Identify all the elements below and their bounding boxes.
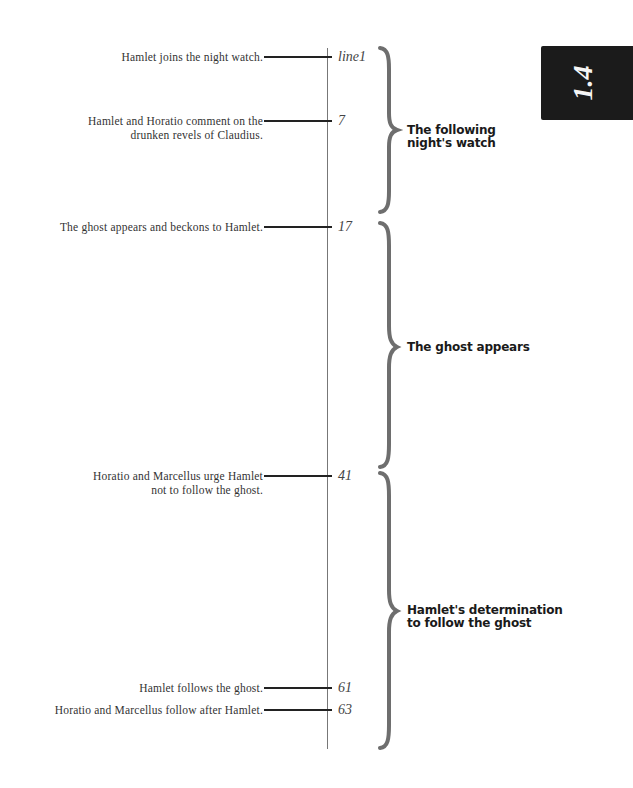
section-brace-icon bbox=[378, 47, 400, 213]
line-number: 17 bbox=[338, 220, 352, 234]
line-number: 61 bbox=[338, 681, 352, 695]
event-description: The ghost appears and beckons to Hamlet. bbox=[60, 220, 263, 234]
scene-number: 1.4 bbox=[568, 63, 598, 103]
line-number: 7 bbox=[338, 114, 345, 128]
section-label: The ghost appears bbox=[407, 341, 530, 354]
event-description: Hamlet follows the ghost. bbox=[139, 681, 263, 695]
event-text-line: Horatio and Marcellus urge Hamlet bbox=[93, 469, 263, 483]
event-description: Horatio and Marcellus follow after Hamle… bbox=[55, 703, 263, 717]
event-text-line: not to follow the ghost. bbox=[93, 483, 263, 497]
event-text-line: drunken revels of Claudius. bbox=[88, 128, 263, 142]
event-description: Hamlet and Horatio comment on the drunke… bbox=[88, 114, 263, 142]
scene-number-tab: 1.4 bbox=[541, 46, 633, 120]
event-description: Hamlet joins the night watch. bbox=[121, 50, 263, 64]
section-label-line: to follow the ghost bbox=[407, 617, 563, 630]
event-description: Horatio and Marcellus urge Hamlet not to… bbox=[93, 469, 263, 497]
event-text-line: Hamlet follows the ghost. bbox=[139, 681, 263, 695]
event-connector-line bbox=[264, 475, 332, 477]
event-connector-line bbox=[264, 226, 332, 228]
event-connector-line bbox=[264, 709, 332, 711]
section-brace-icon bbox=[378, 222, 400, 468]
timeline-axis bbox=[327, 48, 328, 749]
line-number: 41 bbox=[338, 469, 352, 483]
event-text-line: The ghost appears and beckons to Hamlet. bbox=[60, 220, 263, 234]
event-connector-line bbox=[264, 56, 332, 58]
event-connector-line bbox=[264, 687, 332, 689]
event-text-line: Horatio and Marcellus follow after Hamle… bbox=[55, 703, 263, 717]
line-number: line1 bbox=[338, 50, 366, 64]
section-label: Hamlet's determination to follow the gho… bbox=[407, 604, 563, 630]
event-text-line: Hamlet joins the night watch. bbox=[121, 50, 263, 64]
event-connector-line bbox=[264, 120, 332, 122]
section-brace-icon bbox=[378, 472, 400, 749]
event-text-line: Hamlet and Horatio comment on the bbox=[88, 114, 263, 128]
section-label-line: The ghost appears bbox=[407, 341, 530, 354]
section-label-line: night's watch bbox=[407, 137, 496, 150]
section-label: The following night's watch bbox=[407, 124, 496, 150]
line-number: 63 bbox=[338, 703, 352, 717]
